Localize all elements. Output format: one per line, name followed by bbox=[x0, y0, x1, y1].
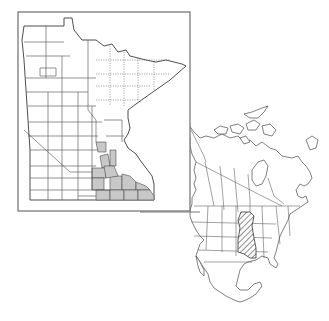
map-canvas bbox=[0, 0, 329, 321]
shaded-county bbox=[110, 176, 122, 190]
greenland-edge bbox=[306, 136, 318, 150]
shaded-county bbox=[110, 190, 124, 200]
shaded-county bbox=[96, 142, 106, 152]
shaded-county bbox=[96, 190, 110, 200]
species-range-hatched bbox=[238, 212, 256, 258]
shaded-county bbox=[124, 190, 138, 200]
distribution-map-figure bbox=[0, 0, 329, 321]
minnesota-map bbox=[18, 12, 190, 211]
shaded-county bbox=[110, 150, 116, 166]
shaded-county bbox=[92, 168, 106, 178]
shaded-county bbox=[92, 178, 104, 190]
